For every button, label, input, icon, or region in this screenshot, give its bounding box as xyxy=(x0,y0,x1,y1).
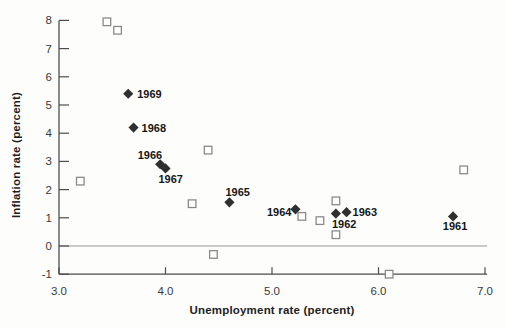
data-point-square xyxy=(298,213,306,221)
data-point-1968 xyxy=(128,122,138,132)
y-tick-label: 5 xyxy=(46,99,52,111)
y-tick-label: 7 xyxy=(46,43,52,55)
data-point-square xyxy=(460,166,468,174)
data-point-1965 xyxy=(224,197,234,207)
data-point-1969 xyxy=(123,89,133,99)
y-tick-label: 2 xyxy=(46,184,52,196)
x-tick-label: 6.0 xyxy=(371,285,387,297)
x-tick-label: 4.0 xyxy=(158,285,174,297)
data-point-square xyxy=(114,26,122,34)
y-tick-label: -1 xyxy=(42,268,52,280)
scatter-plot-svg: 876543210-13.04.05.06.07.019611962196319… xyxy=(0,0,506,329)
year-label-1961: 1961 xyxy=(443,220,467,232)
data-point-1963 xyxy=(341,207,351,217)
data-point-square xyxy=(385,270,393,278)
data-point-square xyxy=(103,18,111,26)
year-label-1967: 1967 xyxy=(159,173,183,185)
data-point-square xyxy=(204,146,212,154)
data-point-square xyxy=(77,177,85,185)
data-point-square xyxy=(332,231,340,239)
y-tick-label: 6 xyxy=(46,71,52,83)
x-tick-label: 5.0 xyxy=(264,285,280,297)
data-point-square xyxy=(332,197,340,205)
phillips-curve-chart: Inflation rate (percent) Unemployment ra… xyxy=(0,0,506,329)
x-tick-label: 7.0 xyxy=(477,285,493,297)
year-label-1969: 1969 xyxy=(137,88,161,100)
y-tick-label: 8 xyxy=(46,14,52,26)
y-tick-label: 0 xyxy=(46,240,52,252)
y-tick-label: 3 xyxy=(46,155,52,167)
year-label-1963: 1963 xyxy=(353,206,377,218)
data-point-square xyxy=(210,251,218,259)
y-tick-label: 4 xyxy=(46,127,53,139)
year-label-1965: 1965 xyxy=(225,186,249,198)
x-tick-label: 3.0 xyxy=(51,285,67,297)
data-point-square xyxy=(188,200,196,208)
year-label-1968: 1968 xyxy=(142,122,166,134)
year-label-1966: 1966 xyxy=(138,149,162,161)
data-point-square xyxy=(316,217,324,225)
year-label-1964: 1964 xyxy=(267,206,292,218)
y-tick-label: 1 xyxy=(46,212,52,224)
year-label-1962: 1962 xyxy=(332,218,356,230)
